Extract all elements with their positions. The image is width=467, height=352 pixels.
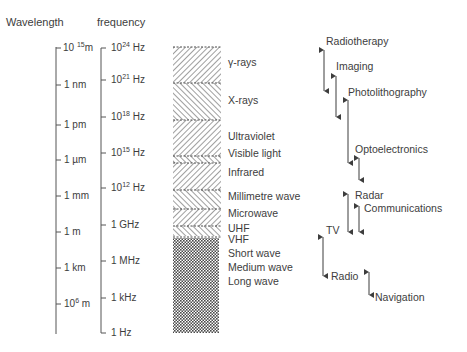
band-vhf-radio <box>173 238 219 333</box>
wavelength-tick-label: 1 km <box>64 262 86 274</box>
frequency-tick-label: 1 Hz <box>111 327 132 339</box>
band-millimetre <box>173 190 221 209</box>
app-label-optoelectronics: Optoelectronics <box>355 143 428 155</box>
app-label-radar: Radar <box>355 189 384 201</box>
band-label-microwave: Microwave <box>228 207 278 219</box>
wavelength-tick-label: 1 nm <box>64 79 86 91</box>
wavelength-tick-label: 1 pm <box>64 119 86 131</box>
app-label-tv: TV <box>326 224 339 236</box>
wavelength-tick-label: 1 m <box>64 226 81 238</box>
app-label-radiotherapy: Radiotherapy <box>326 35 388 47</box>
wavelength-axis <box>56 47 61 334</box>
frequency-tick-label: 1 MHz <box>111 255 140 267</box>
band-label-visible: Visible light <box>228 147 281 159</box>
band-infrared <box>173 163 221 190</box>
wavelength-tick-label: 10 15m <box>63 42 93 55</box>
band-uv <box>173 120 221 156</box>
app-label-imaging: Imaging <box>336 60 373 72</box>
band-microwave <box>173 209 221 226</box>
band-label-ultraviolet: Ultraviolet <box>228 130 275 142</box>
wavelength-tick-label: 106 m <box>64 298 90 311</box>
frequency-tick-label: 1 GHz <box>111 219 139 231</box>
frequency-axis <box>101 48 106 333</box>
frequency-tick-label: 1015 Hz <box>111 147 145 160</box>
band-label-vhf: VHF <box>228 233 249 245</box>
wavelength-tick-label: 1 µm <box>64 154 86 166</box>
band-xray <box>173 83 221 120</box>
band-label-infrared: Infrared <box>228 166 264 178</box>
app-label-navigation: Navigation <box>375 291 425 303</box>
band-gamma <box>173 47 221 83</box>
band-label-long-wave: Long wave <box>228 275 279 287</box>
band-label-millimetre: Millimetre wave <box>228 190 300 202</box>
frequency-tick-label: 1024 Hz <box>111 42 145 55</box>
band-label-gamma: γ-rays <box>228 56 257 68</box>
wavelength-tick-label: 1 mm <box>64 190 89 202</box>
app-label-photolithography: Photolithography <box>348 86 427 98</box>
frequency-tick-label: 1021 Hz <box>111 74 145 87</box>
app-label-radio: Radio <box>331 270 358 282</box>
frequency-tick-label: 1018 Hz <box>111 111 145 124</box>
app-label-communications: Communications <box>364 202 442 214</box>
frequency-tick-label: 1012 Hz <box>111 182 145 195</box>
frequency-tick-label: 1 kHz <box>111 292 137 304</box>
spectrum-bar <box>173 47 221 333</box>
band-label-xray: X-rays <box>228 94 258 106</box>
band-label-medium-wave: Medium wave <box>228 261 293 273</box>
wavelength-header: Wavelength <box>6 16 64 28</box>
band-visible <box>173 156 221 163</box>
frequency-header: frequency <box>97 16 145 28</box>
band-uhf <box>173 226 221 236</box>
band-label-short-wave: Short wave <box>228 247 281 259</box>
